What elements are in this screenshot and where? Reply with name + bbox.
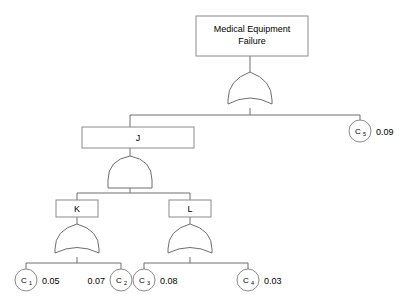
intermediate-label-L: L <box>187 204 192 214</box>
intermediate-label-J: J <box>136 133 141 143</box>
basic-event-label-C5: C <box>355 127 361 136</box>
basic-event-subscript-C1: 1 <box>29 280 32 286</box>
probability-C2: 0.07 <box>87 276 105 286</box>
probability-C4: 0.03 <box>264 276 282 286</box>
basic-event-label-C4: C <box>243 276 249 285</box>
basic-event-subscript-C2: 2 <box>124 280 127 286</box>
probability-C3: 0.08 <box>160 276 178 286</box>
probability-C1: 0.05 <box>42 276 60 286</box>
or-gate-top <box>228 72 272 104</box>
basic-event-label-C2: C <box>116 276 122 285</box>
or-gate-K <box>55 224 99 253</box>
top-event-label-line2: Failure <box>238 36 266 46</box>
top-event-label-line1: Medical Equipment <box>214 24 291 34</box>
probability-C5: 0.09 <box>376 127 394 137</box>
fault-tree-diagram: Medical Equipment Failure J K L C 1 0.05… <box>0 0 407 304</box>
fault-tree-canvas: Medical Equipment Failure J K L C 1 0.05… <box>0 0 407 304</box>
basic-event-subscript-C4: 4 <box>251 280 254 286</box>
or-gate-L <box>168 224 212 253</box>
basic-event-subscript-C3: 3 <box>147 280 150 286</box>
and-gate-J <box>108 156 152 188</box>
basic-event-label-C1: C <box>21 276 27 285</box>
basic-event-subscript-C5: 5 <box>363 131 366 137</box>
intermediate-label-K: K <box>74 204 80 214</box>
basic-event-label-C3: C <box>139 276 145 285</box>
